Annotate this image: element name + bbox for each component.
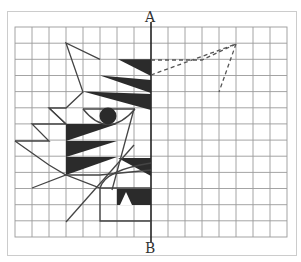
axis-label-b: B bbox=[145, 240, 155, 256]
mouth bbox=[117, 189, 151, 205]
symmetry-diagram: A B bbox=[0, 0, 301, 262]
reflected-ear-dashed bbox=[151, 44, 236, 92]
eye-pupil bbox=[100, 108, 117, 125]
axis-label-a: A bbox=[144, 9, 156, 25]
